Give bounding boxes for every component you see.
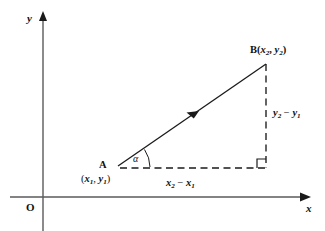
horiz-minus: − [177,177,183,188]
angle-arc-alpha [145,150,151,168]
vert-var-b: y [273,107,278,118]
vert-minus: − [284,107,290,118]
point-b-x-var: x [261,44,266,55]
horizontal-segment-label: x2 − x1 [166,178,195,189]
horiz-sub-a: 1 [191,182,195,190]
origin-label: O [26,202,35,213]
point-a-x-sub: 1 [90,178,94,186]
point-b-name: B [250,44,257,55]
y-axis-arrowhead [39,11,47,21]
point-a-y-sub: 1 [103,178,107,186]
point-b-y-sub: 2 [279,49,283,57]
point-b-paren-close: ) [283,44,287,55]
point-a-coords: (x1, y1) [81,174,110,185]
vert-sub-b: 2 [278,112,282,120]
x-axis-arrowhead [300,193,311,202]
vert-sub-a: 1 [297,112,301,120]
triangle-group [118,64,266,168]
point-a-x-var: x [85,173,90,184]
point-a-paren-close: ) [107,173,111,184]
geometry-diagram: y x O B(x2, y2) A (x1, y1) α x2 − x1 y2 … [0,0,325,231]
angle-alpha-label: α [133,154,138,164]
point-a-label: A [99,160,107,171]
y-axis-label: y [27,13,32,24]
right-angle-marker [257,159,266,168]
horiz-sub-b: 2 [171,182,175,190]
point-b-x-sub: 2 [266,49,270,57]
vertical-segment-label: y2 − y1 [273,108,301,119]
point-b-label: B(x2, y2) [250,45,286,56]
x-axis-label: x [306,203,312,214]
